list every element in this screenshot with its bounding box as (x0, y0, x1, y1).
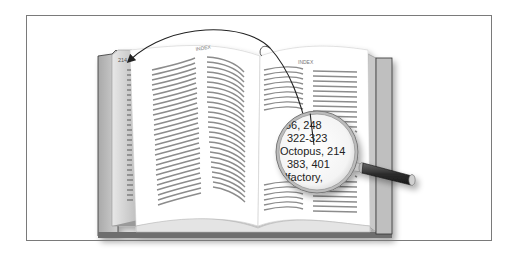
magnified-line-2: 322-323 (287, 132, 327, 144)
magnified-line-4: 383, 401 (287, 158, 330, 170)
magnified-line-3: Octopus, 214 (280, 145, 345, 157)
book-index-illustration: 214 INDEX INDEX 66, 248 322-323 Octopus,… (0, 0, 518, 268)
right-page-header: INDEX (298, 59, 314, 65)
left-page-number: 214 (118, 57, 127, 63)
